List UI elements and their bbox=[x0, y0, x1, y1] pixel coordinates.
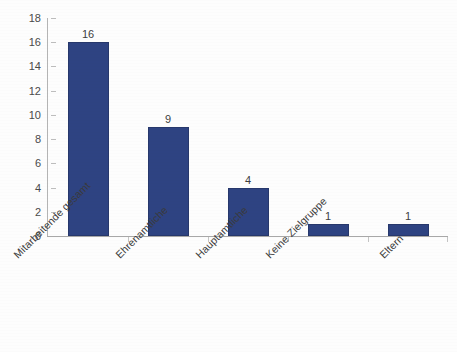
y-tick-label: 2 bbox=[35, 206, 41, 218]
bar-value-label: 16 bbox=[48, 28, 128, 40]
y-axis-tick-labels: 18 16 14 12 10 8 6 4 2 0 bbox=[8, 0, 41, 352]
bar[interactable] bbox=[68, 42, 109, 236]
y-tick-label: 12 bbox=[29, 85, 41, 97]
bar-value-label: 4 bbox=[208, 174, 288, 186]
y-tick-label: 6 bbox=[35, 157, 41, 169]
bar[interactable] bbox=[308, 224, 349, 236]
y-tick-label: 14 bbox=[29, 60, 41, 72]
y-tick-label: 16 bbox=[29, 36, 41, 48]
y-tick-label: 10 bbox=[29, 109, 41, 121]
x-tick-mark bbox=[447, 237, 448, 242]
x-axis-line bbox=[47, 236, 448, 237]
bar-value-label: 9 bbox=[128, 113, 208, 125]
bar-value-label: 1 bbox=[368, 210, 448, 222]
y-tick-label: 18 bbox=[29, 12, 41, 24]
plot-area bbox=[47, 18, 447, 236]
bar-chart: 18 16 14 12 10 8 6 4 2 0 16 9 4 1 bbox=[0, 0, 457, 352]
y-tick-label: 8 bbox=[35, 133, 41, 145]
y-tick-label: 4 bbox=[35, 182, 41, 194]
x-tick-mark bbox=[368, 237, 369, 242]
